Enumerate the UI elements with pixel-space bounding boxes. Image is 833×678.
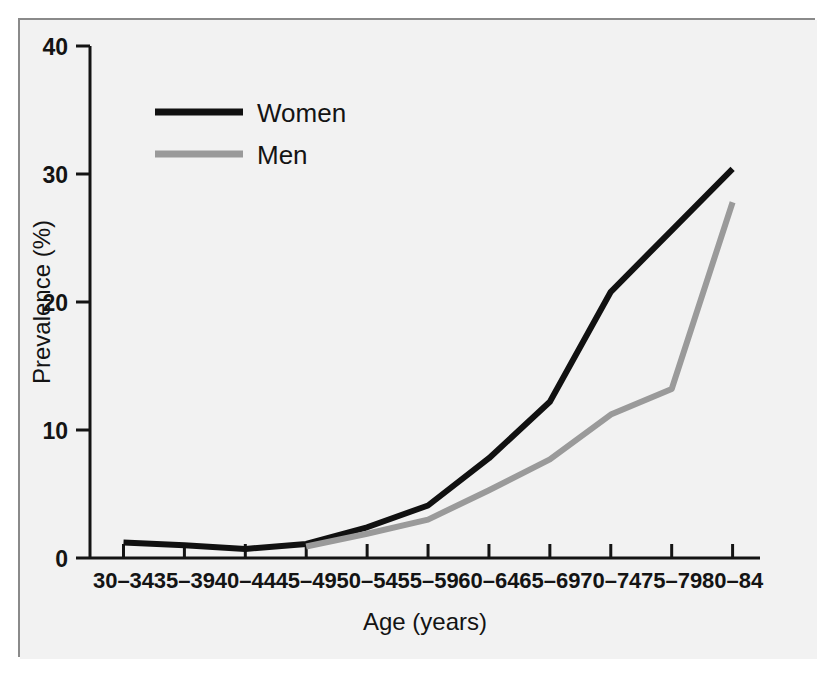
figure-frame: 010203040 30–3435–3940–4445–4950–5455–59… <box>18 18 815 657</box>
x-tick-label: 30–34 <box>93 568 155 593</box>
legend-label-men: Men <box>257 140 308 170</box>
x-tick-label: 75–79 <box>641 568 702 593</box>
chart-background <box>20 20 817 659</box>
x-tick-label: 80–84 <box>702 568 764 593</box>
cut-off-caption-text <box>22 668 812 678</box>
x-axis-title: Age (years) <box>363 608 487 635</box>
y-tick-label: 10 <box>42 418 68 444</box>
y-axis-title: Prevalence (%) <box>28 220 55 384</box>
x-tick-label: 50–54 <box>337 568 399 593</box>
x-tick-label: 70–74 <box>580 568 642 593</box>
prevalence-line-chart: 010203040 30–3435–3940–4445–4950–5455–59… <box>20 20 817 659</box>
x-axis-tick-labels: 30–3435–3940–4445–4950–5455–5960–6465–69… <box>93 568 764 593</box>
x-tick-label: 55–59 <box>397 568 458 593</box>
legend-label-women: Women <box>257 98 346 128</box>
y-tick-label: 0 <box>55 546 68 572</box>
x-tick-label: 45–49 <box>276 568 337 593</box>
x-tick-label: 65–69 <box>519 568 580 593</box>
x-tick-label: 60–64 <box>458 568 520 593</box>
y-tick-label: 30 <box>42 162 68 188</box>
x-tick-label: 35–39 <box>154 568 215 593</box>
cut-off-header-text <box>18 0 438 7</box>
plot-area: 010203040 30–3435–3940–4445–4950–5455–59… <box>20 20 813 655</box>
y-tick-label: 40 <box>42 34 68 60</box>
x-tick-label: 40–44 <box>215 568 277 593</box>
